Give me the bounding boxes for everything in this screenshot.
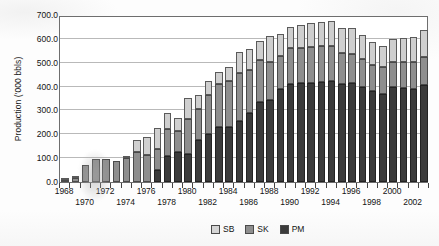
bar-group[interactable] [195, 95, 202, 182]
bar-segment-sb [287, 27, 294, 48]
bar-segment-sk [72, 178, 79, 182]
legend-label: SK [257, 225, 268, 234]
y-tick-label: 300.0 [16, 106, 58, 115]
bar-group[interactable] [225, 67, 232, 182]
bar-group[interactable] [143, 137, 150, 182]
bar-segment-sk [215, 84, 222, 127]
bar-segment-sk [82, 165, 89, 182]
bar-segment-sb [72, 176, 79, 178]
bar-group[interactable] [174, 118, 181, 182]
bar-group[interactable] [318, 22, 325, 182]
bar-group[interactable] [287, 27, 294, 182]
bars-layer [60, 17, 427, 182]
bar-segment-pm [184, 154, 191, 182]
bar-segment-sb [154, 128, 161, 148]
bar-segment-pm [277, 89, 284, 182]
bar-segment-sb [174, 118, 181, 131]
bar-segment-pm [164, 156, 171, 182]
bar-segment-pm [256, 102, 263, 182]
bar-segment-sb [328, 21, 335, 46]
bar-group[interactable] [102, 159, 109, 182]
bar-segment-sb [379, 46, 386, 67]
bar-segment-sb [236, 52, 243, 73]
bar-segment-sk [369, 65, 376, 91]
bar-segment-pm [400, 88, 407, 182]
bar-group[interactable] [277, 34, 284, 182]
bar-group[interactable] [205, 81, 212, 182]
bar-group[interactable] [72, 177, 79, 182]
bar-group[interactable] [338, 28, 345, 182]
bar-segment-sk [236, 73, 243, 121]
bar-segment-sk [205, 95, 212, 134]
bar-segment-sb [338, 28, 345, 53]
y-tick-label: 100.0 [16, 154, 58, 163]
x-tick-label: 1980 [172, 186, 202, 196]
bar-segment-pm [215, 127, 222, 182]
bar-segment-sk [338, 53, 345, 84]
bar-group[interactable] [328, 21, 335, 182]
bar-group[interactable] [164, 113, 171, 182]
bar-segment-sk [164, 129, 171, 156]
bar-group[interactable] [348, 28, 355, 182]
bar-group[interactable] [61, 179, 68, 182]
bar-group[interactable] [184, 98, 191, 182]
bar-group[interactable] [389, 39, 396, 182]
bar-group[interactable] [82, 165, 89, 182]
bar-group[interactable] [113, 161, 120, 182]
bar-group[interactable] [246, 49, 253, 182]
legend-item-sb[interactable]: SB [211, 225, 234, 234]
bar-segment-sb [297, 25, 304, 48]
bar-group[interactable] [256, 41, 263, 182]
bar-group[interactable] [133, 140, 140, 182]
bar-segment-sk [174, 131, 181, 152]
bar-segment-pm [205, 134, 212, 182]
bar-group[interactable] [420, 30, 427, 182]
bar-group[interactable] [123, 157, 130, 182]
y-tick-label: 500.0 [16, 59, 58, 68]
x-tick-label: 1996 [336, 186, 366, 196]
bar-segment-sb [410, 37, 417, 62]
bar-segment-sk [307, 47, 314, 83]
legend-item-sk[interactable]: SK [245, 225, 268, 234]
x-tick-label: 1970 [70, 197, 100, 207]
bar-group[interactable] [400, 38, 407, 182]
bar-segment-sk [123, 158, 130, 182]
bar-group[interactable] [307, 23, 314, 182]
bar-group[interactable] [379, 46, 386, 182]
bar-segment-sb [195, 95, 202, 109]
bar-segment-sk [246, 70, 253, 112]
y-tick-label: 400.0 [16, 83, 58, 92]
x-tick-label: 2000 [377, 186, 407, 196]
bar-segment-sb [318, 22, 325, 46]
x-tick-label: 1990 [275, 197, 305, 207]
bar-group[interactable] [410, 37, 417, 182]
bar-segment-sb [266, 36, 273, 61]
bar-segment-pm [174, 152, 181, 182]
x-tick-label: 1998 [357, 197, 387, 207]
bar-segment-sb [143, 137, 150, 155]
bar-segment-sk [318, 46, 325, 82]
bar-group[interactable] [369, 42, 376, 182]
bar-group[interactable] [215, 72, 222, 182]
bar-segment-sb [389, 39, 396, 62]
bar-group[interactable] [92, 159, 99, 182]
bar-segment-sb [205, 81, 212, 95]
bar-group[interactable] [266, 36, 273, 182]
legend-item-pm[interactable]: PM [280, 225, 305, 234]
bar-segment-pm [236, 121, 243, 182]
legend-swatch-icon [211, 225, 220, 234]
x-tick-label: 1988 [254, 186, 284, 196]
bar-segment-sk [379, 67, 386, 94]
bar-group[interactable] [154, 128, 161, 182]
bar-segment-sk [297, 48, 304, 83]
bar-segment-sk [287, 48, 294, 84]
bar-group[interactable] [236, 52, 243, 182]
bar-segment-sk [184, 119, 191, 154]
bar-segment-sk [102, 159, 109, 182]
y-tick-label: 600.0 [16, 35, 58, 44]
bar-segment-pm [328, 81, 335, 182]
bar-group[interactable] [297, 25, 304, 182]
bar-segment-pm [338, 84, 345, 182]
bar-group[interactable] [359, 35, 366, 182]
bar-segment-pm [348, 83, 355, 182]
